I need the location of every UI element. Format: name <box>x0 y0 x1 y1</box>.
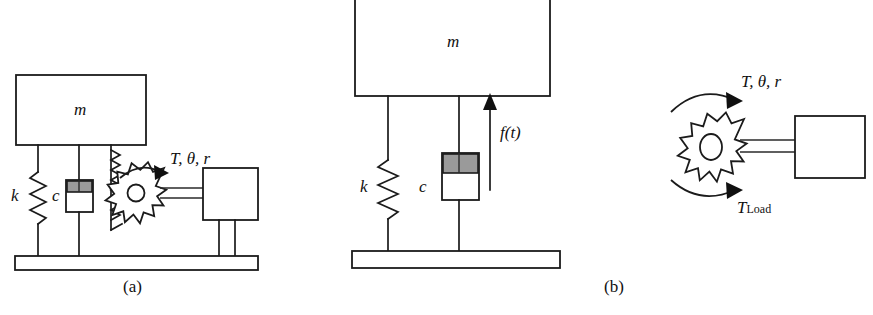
panel-b-right-torque-arrowhead-upper <box>726 92 743 109</box>
panel-a-torque-label: T, θ, r <box>170 150 210 167</box>
panel-b-mass-label: m <box>447 33 459 50</box>
panel-b-right-group <box>671 92 865 199</box>
panel-a-mass-label: m <box>74 101 86 118</box>
figure-canvas: m k c T, θ, r (a) m k c f(t) T, θ, r TLo… <box>0 0 873 315</box>
panel-a-damper-label: c <box>52 187 60 204</box>
panel-b-right-torque-label: T, θ, r <box>741 73 781 90</box>
panel-a-torque-arrowhead <box>154 165 169 180</box>
mechanical-diagram-svg <box>0 0 873 315</box>
panel-a-motor-block <box>203 168 258 220</box>
panel-b-spring <box>378 160 398 219</box>
panel-a-spring-label: k <box>11 187 19 204</box>
panel-b-caption: (b) <box>604 278 624 295</box>
panel-b-right-load-block <box>795 116 865 178</box>
panel-a-base-plate <box>15 256 258 270</box>
panel-a-spring <box>30 172 46 224</box>
panel-b-right-gear-hub <box>700 134 722 160</box>
panel-a-caption: (a) <box>123 278 142 295</box>
panel-b-right-load-torque-label: TLoad <box>737 199 771 216</box>
panel-b-damper-label: c <box>419 178 427 195</box>
panel-a-group <box>15 75 258 270</box>
panel-b-base-plate <box>352 251 560 268</box>
panel-a-rack-foot <box>111 224 122 230</box>
panel-b-force-label: f(t) <box>500 124 521 141</box>
panel-a-gear-hub <box>128 185 145 202</box>
load-torque-subscript: Load <box>746 202 771 216</box>
panel-b-spring-label: k <box>360 178 368 195</box>
panel-b-right-torque-arrowhead-lower <box>726 182 743 199</box>
panel-b-right-torque-arc-upper <box>671 94 735 112</box>
panel-b-right-torque-arc-lower <box>671 180 735 196</box>
panel-b-damper-piston <box>443 154 478 173</box>
